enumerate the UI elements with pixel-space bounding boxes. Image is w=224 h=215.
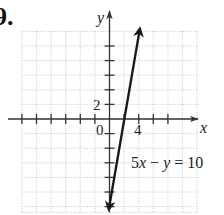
x-axis-label: x: [199, 119, 207, 136]
eq-rest: = 10: [170, 154, 203, 171]
y-axis-label: y: [95, 9, 105, 27]
eq-minus: −: [146, 154, 163, 171]
origin-label: 0: [96, 122, 104, 138]
eq-coef: 5: [131, 154, 139, 171]
eq-var-x: x: [138, 154, 146, 171]
x-tick-label-4: 4: [134, 122, 142, 138]
equation-label: 5x − y = 10: [131, 154, 203, 172]
y-tick-label-2: 2: [93, 97, 101, 113]
coordinate-plane: y x 0 4 2 5x − y = 10: [0, 0, 224, 215]
